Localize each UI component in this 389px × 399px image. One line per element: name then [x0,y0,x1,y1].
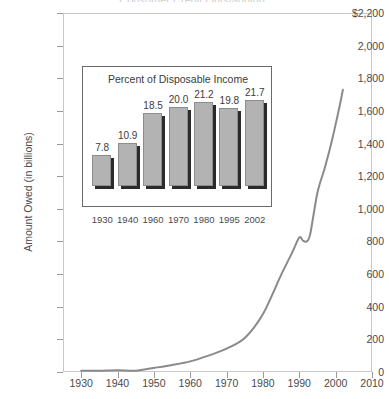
y-tick-label: 1,400 [328,138,384,150]
y-tick-label: 400 [328,301,384,313]
y-tick-mark [57,274,63,275]
inset-bar-value-label: 21.7 [239,87,271,98]
inset-bar-body [245,100,264,186]
y-tick-mark [57,144,63,145]
inset-bar: 10.9 [118,91,137,186]
y-axis-title: Amount Owed (in billions) [22,117,34,267]
inset-bar: 21.7 [245,91,264,186]
y-tick-label: 1,000 [328,203,384,215]
inset-bar-category-label: 2002 [240,214,270,225]
y-tick-label: 1,800 [328,72,384,84]
y-tick-mark [57,339,63,340]
inset-bar-body [92,155,111,186]
inset-bar: 7.8 [92,91,111,186]
y-tick-mark [57,111,63,112]
x-tick-label: 2010 [349,377,389,389]
inset-bar-chart: Percent of Disposable Income 7.8193010.9… [82,66,272,207]
x-tick-mark [299,372,300,378]
y-tick-mark [57,307,63,308]
y-tick-mark [57,241,63,242]
inset-bar-body [194,102,213,186]
y-tick-mark [57,176,63,177]
y-tick-label: 800 [328,235,384,247]
y-tick-mark [57,78,63,79]
inset-bar: 19.8 [219,91,238,186]
y-tick-label: 2,000 [328,40,384,52]
x-tick-mark [372,372,373,378]
x-tick-mark [227,372,228,378]
y-tick-label: $2,200 [328,7,384,19]
x-tick-mark [190,372,191,378]
y-tick-mark [57,46,63,47]
inset-plot-area: 7.8193010.9194018.5196020.0197021.219801… [89,91,267,186]
y-tick-label: 200 [328,333,384,345]
inset-bar-body [219,108,238,186]
inset-bar-body [143,113,162,186]
y-tick-label: 600 [328,268,384,280]
inset-bar: 21.2 [194,91,213,186]
x-tick-mark [336,372,337,378]
inset-bar-value-label: 7.8 [86,142,118,153]
inset-bar-body [118,143,137,186]
y-tick-label: 1,200 [328,170,384,182]
y-tick-mark [57,13,63,14]
y-tick-mark [57,209,63,210]
inset-bar-value-label: 10.9 [112,130,144,141]
x-tick-mark [154,372,155,378]
x-tick-mark [118,372,119,378]
inset-bar: 18.5 [143,91,162,186]
x-tick-mark [81,372,82,378]
inset-bar: 20.0 [169,91,188,186]
inset-chart-title: Percent of Disposable Income [83,73,273,85]
y-tick-mark [57,372,63,373]
x-tick-mark [263,372,264,378]
y-tick-label: 1,600 [328,105,384,117]
inset-bar-body [169,107,188,186]
